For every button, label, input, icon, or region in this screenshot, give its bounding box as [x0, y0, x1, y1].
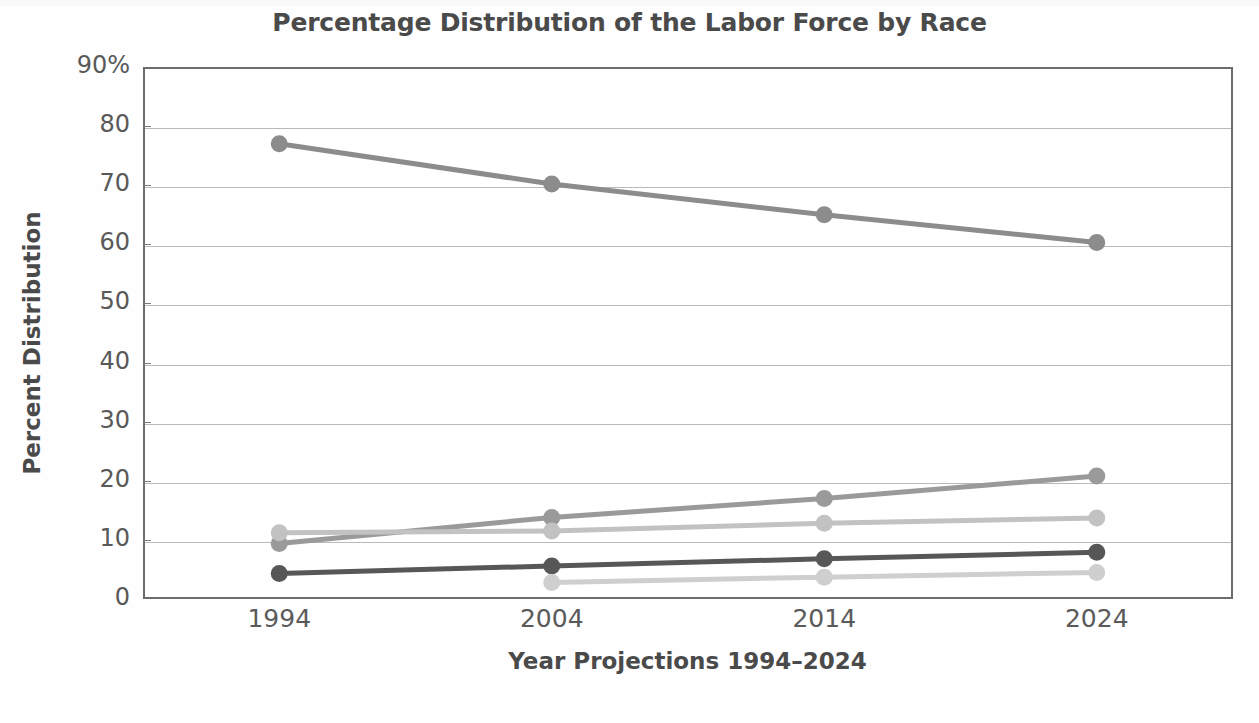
y-tick-mark: [143, 303, 151, 304]
plot-area: [143, 67, 1233, 599]
gridline: [145, 424, 1231, 425]
y-tick-mark: [143, 540, 151, 541]
y-tick-mark: [143, 126, 151, 127]
gridline: [145, 187, 1231, 188]
y-tick-mark: [143, 481, 151, 482]
y-tick-label: 60: [42, 228, 130, 256]
gridline: [145, 365, 1231, 366]
y-tick-mark: [143, 244, 151, 245]
chart-figure: Percentage Distribution of the Labor For…: [0, 0, 1259, 723]
y-tick-label: 80: [42, 110, 130, 138]
x-axis-title: Year Projections 1994–2024: [140, 648, 1235, 674]
gridline: [145, 483, 1231, 484]
x-tick-label: 2024: [1007, 604, 1187, 633]
y-tick-label: 20: [42, 465, 130, 493]
y-tick-label: 50: [42, 287, 130, 315]
scan-artifact: [0, 0, 1259, 6]
y-tick-mark: [143, 422, 151, 423]
chart-title: Percentage Distribution of the Labor For…: [0, 8, 1259, 37]
x-tick-label: 1994: [189, 604, 369, 633]
x-tick-label: 2014: [734, 604, 914, 633]
y-tick-mark: [143, 363, 151, 364]
y-tick-label: 90%: [42, 51, 130, 79]
y-tick-label: 70: [42, 169, 130, 197]
gridline: [145, 246, 1231, 247]
y-tick-mark: [143, 185, 151, 186]
y-tick-label: 30: [42, 406, 130, 434]
y-tick-label: 0: [42, 583, 130, 611]
y-tick-label: 40: [42, 347, 130, 375]
x-tick-label: 2004: [462, 604, 642, 633]
y-tick-label: 10: [42, 524, 130, 552]
gridline: [145, 305, 1231, 306]
gridline: [145, 542, 1231, 543]
gridline: [145, 128, 1231, 129]
